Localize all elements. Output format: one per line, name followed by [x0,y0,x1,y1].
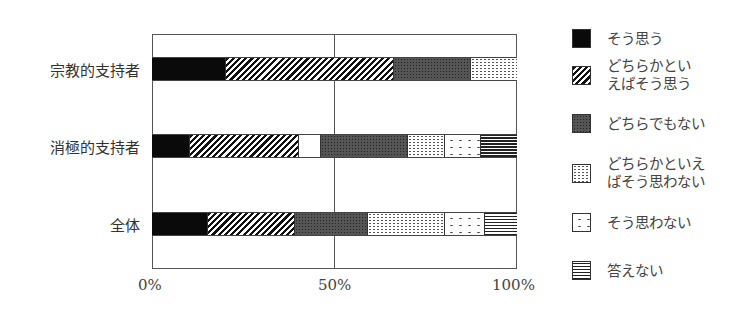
bar-segment-hatch [225,58,393,80]
legend-label: どちらでもない [607,115,705,133]
bar-segment-horiz [484,213,517,235]
legend-swatch-light-dots [572,164,591,183]
legend-swatch-sparse-dots [572,213,591,232]
bar-segment-sparse [444,213,484,235]
bar-segment-hatch [189,135,299,157]
category-label-religious-supporters: 宗教的支持者 [50,59,140,80]
bar-segment-dark [393,58,470,80]
bar-segment-solid [152,135,189,157]
bar-segment-dark [294,213,367,235]
legend-label: 答えない [607,262,663,280]
bar-overall [152,212,517,236]
bar-passive-supporters [152,134,517,158]
x-tick-50: 50% [318,276,351,294]
legend-item-no-answer: 答えない [572,261,663,280]
legend-label: どちらかといえばそう思わない [607,155,705,191]
bar-segment-solid [152,213,207,235]
legend-item-disagree: そう思わない [572,213,691,232]
legend-label: そう思う [607,30,663,48]
bar-segment-solid [152,58,225,80]
legend-swatch-hatch [572,66,591,85]
category-label-overall: 全体 [110,214,140,235]
bar-segment-dark [320,135,408,157]
legend-label: そう思わない [607,214,691,232]
bar-segment-light [470,58,517,80]
x-tick-100: 100% [492,276,535,294]
x-tick-0: 0% [138,276,162,294]
legend-swatch-horizontal-lines [572,261,591,280]
legend-label: どちらかといえばそう思う [607,57,691,93]
legend-item-somewhat-disagree: どちらかといえばそう思わない [572,155,705,191]
bar-segment-horiz [480,135,517,157]
bar-religious-supporters [152,57,517,81]
legend-item-agree: そう思う [572,29,663,48]
bar-segment-sparse [444,135,481,157]
legend-item-somewhat-agree: どちらかといえばそう思う [572,57,691,93]
bar-segment-hatch [207,213,295,235]
clipped-caption [60,0,350,3]
bar-segment-white [298,135,320,157]
plot-area [152,34,517,269]
bar-segment-light [367,213,444,235]
legend-swatch-dark-dots [572,114,591,133]
legend-item-neutral: どちらでもない [572,114,705,133]
legend-swatch-solid [572,29,591,48]
category-label-passive-supporters: 消極的支持者 [50,136,140,157]
bar-segment-light [407,135,444,157]
